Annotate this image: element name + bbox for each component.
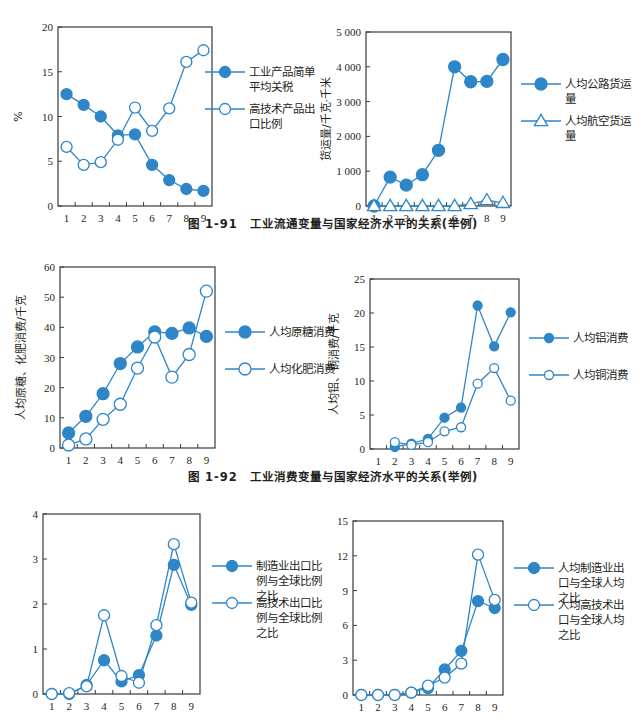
- x-tick-label: 5: [425, 701, 431, 713]
- x-tick-label: 1: [359, 701, 365, 713]
- chart-svg: 03691215123456789人均制造业出口与全球人均之比人均高技术出口与全…: [0, 0, 641, 718]
- y-tick-label: 9: [343, 585, 349, 597]
- data-point-marker: [356, 690, 367, 701]
- data-point-marker: [456, 645, 467, 656]
- x-tick-label: 7: [459, 701, 465, 713]
- y-tick-label: 15: [337, 515, 349, 527]
- legend-marker-icon: [529, 600, 540, 611]
- series-secondary: [356, 549, 500, 700]
- data-point-marker: [473, 549, 484, 560]
- y-tick-label: 0: [343, 689, 349, 701]
- x-tick-label: 2: [375, 701, 381, 713]
- data-point-marker: [423, 680, 434, 691]
- data-point-marker: [439, 672, 450, 683]
- data-point-marker: [373, 690, 384, 701]
- y-tick-label: 12: [337, 550, 348, 562]
- x-tick-label: 9: [492, 701, 498, 713]
- legend-label: 人均高技术出: [558, 598, 624, 612]
- legend-label: 人均制造业出: [558, 561, 624, 575]
- legend-label: 之比: [558, 628, 580, 642]
- legend-label: 口与全球人均: [558, 576, 624, 590]
- legend-item: 人均高技术出口与全球人均之比: [514, 598, 624, 642]
- legend-label: 口与全球人均: [558, 613, 624, 627]
- data-point-marker: [456, 658, 467, 669]
- x-tick-label: 3: [392, 701, 398, 713]
- data-point-marker: [406, 687, 417, 698]
- data-point-marker: [473, 596, 484, 607]
- plot-frame: [353, 521, 503, 695]
- legend-marker-icon: [529, 563, 540, 574]
- x-tick-label: 6: [442, 701, 448, 713]
- data-point-marker: [389, 690, 400, 701]
- chart-per-capita-export-ratio: 03691215123456789人均制造业出口与全球人均之比人均高技术出口与全…: [0, 0, 641, 718]
- y-tick-label: 3: [343, 654, 349, 666]
- x-tick-label: 4: [409, 701, 415, 713]
- data-point-marker: [489, 594, 500, 605]
- x-tick-label: 8: [475, 701, 481, 713]
- y-tick-label: 6: [343, 619, 349, 631]
